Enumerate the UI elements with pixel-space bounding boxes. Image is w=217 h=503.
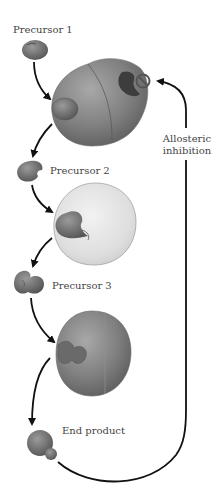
allosteric-label-line1: Allosteric [160,133,214,145]
precursor-3-label: Precursor 3 [52,280,112,292]
end-product-label: End product [62,425,125,437]
arrow-enzyme1-to-p2 [33,124,52,156]
precursor-1-molecule [22,40,48,60]
allosteric-inhibition-label: Allosteric inhibition [160,133,214,157]
enzyme-1 [52,59,148,146]
end-product-molecule [27,430,57,460]
arrow-enzyme2-to-p3 [33,238,52,266]
arrow-p2-to-enzyme2 [32,185,52,212]
precursor-2-molecule [17,161,42,182]
arrow-p1-to-enzyme1 [34,62,50,99]
enzyme-2 [54,183,136,265]
precursor-2-label: Precursor 2 [50,165,110,177]
arrow-p3-to-enzyme3 [31,298,54,342]
enzyme-3 [56,311,131,396]
allosteric-label-line2: inhibition [160,145,214,157]
precursor-3-molecule [14,271,44,294]
arrow-enzyme3-to-end-product [32,358,50,424]
precursor-1-label: Precursor 1 [13,24,73,36]
